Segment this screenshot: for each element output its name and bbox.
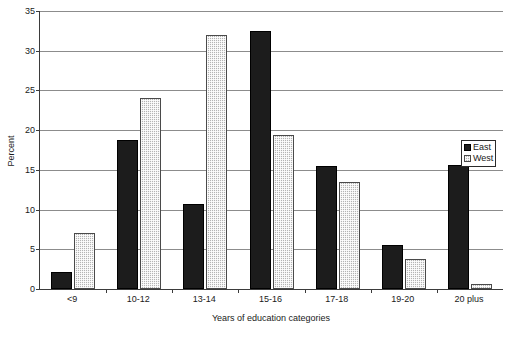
bar-west-1 bbox=[140, 98, 161, 289]
x-axis-tick bbox=[371, 289, 372, 293]
x-axis-tick bbox=[437, 289, 438, 293]
chart-legend: East West bbox=[461, 140, 496, 167]
legend-item-west: West bbox=[464, 153, 493, 164]
y-axis-label: Percent bbox=[6, 135, 16, 166]
y-axis-tick-label: 20 bbox=[25, 125, 35, 135]
y-axis-tick bbox=[36, 210, 40, 211]
y-axis-label-container: Percent bbox=[9, 11, 10, 290]
gridline bbox=[40, 249, 503, 250]
bar-west-3 bbox=[273, 135, 294, 289]
y-axis-tick-label: 30 bbox=[25, 46, 35, 56]
bar-east-3 bbox=[250, 31, 271, 289]
bar-east-4 bbox=[316, 166, 337, 289]
bar-west-6 bbox=[471, 284, 492, 289]
legend-swatch-east-icon bbox=[464, 144, 471, 151]
y-axis-tick bbox=[36, 51, 40, 52]
y-axis-tick bbox=[36, 11, 40, 12]
bar-chart-figure: Percent 05101520253035 Years of educatio… bbox=[0, 0, 510, 337]
y-axis-tick bbox=[36, 289, 40, 290]
y-axis-tick bbox=[36, 130, 40, 131]
gridline bbox=[40, 210, 503, 211]
bar-west-2 bbox=[206, 35, 227, 289]
bar-west-5 bbox=[405, 259, 426, 289]
legend-swatch-west-icon bbox=[464, 155, 471, 162]
x-axis-tick-label: <9 bbox=[67, 294, 77, 304]
x-axis-tick bbox=[238, 289, 239, 293]
bar-east-2 bbox=[183, 204, 204, 289]
legend-label-west: West bbox=[473, 154, 493, 163]
gridline bbox=[40, 11, 503, 12]
x-axis-tick-label: 10-12 bbox=[127, 294, 150, 304]
gridline bbox=[40, 51, 503, 52]
y-axis-tick-label: 5 bbox=[30, 244, 35, 254]
x-axis-tick-label: 17-18 bbox=[325, 294, 348, 304]
x-axis-tick-label: 15-16 bbox=[259, 294, 282, 304]
y-axis-tick-label: 10 bbox=[25, 205, 35, 215]
x-axis-tick bbox=[106, 289, 107, 293]
bar-east-1 bbox=[117, 140, 138, 289]
y-axis-tick-label: 35 bbox=[25, 6, 35, 16]
y-axis-tick bbox=[36, 249, 40, 250]
legend-label-east: East bbox=[473, 143, 491, 152]
x-axis-tick-label: 20 plus bbox=[454, 294, 483, 304]
bar-east-6 bbox=[448, 165, 469, 289]
y-axis-tick bbox=[36, 170, 40, 171]
y-axis-tick-label: 25 bbox=[25, 85, 35, 95]
bar-west-4 bbox=[339, 182, 360, 289]
bar-west-0 bbox=[74, 233, 95, 289]
bar-east-0 bbox=[51, 272, 72, 289]
y-axis-tick-label: 15 bbox=[25, 165, 35, 175]
gridline bbox=[40, 90, 503, 91]
x-axis-tick-label: 19-20 bbox=[391, 294, 414, 304]
y-axis-tick bbox=[36, 90, 40, 91]
x-axis-tick bbox=[305, 289, 306, 293]
plot-area: 05101520253035 bbox=[39, 11, 503, 290]
legend-item-east: East bbox=[464, 142, 493, 153]
gridline bbox=[40, 130, 503, 131]
gridline bbox=[40, 170, 503, 171]
y-axis-tick-label: 0 bbox=[30, 284, 35, 294]
x-axis-label: Years of education categories bbox=[212, 313, 330, 323]
x-axis-tick bbox=[172, 289, 173, 293]
x-axis-tick-label: 13-14 bbox=[193, 294, 216, 304]
bar-east-5 bbox=[382, 245, 403, 289]
